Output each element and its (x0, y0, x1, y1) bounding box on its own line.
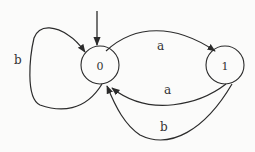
state-1-label: 1 (222, 60, 229, 73)
transition-0-0-label: b (14, 53, 22, 67)
transition-1-0-a-label: a (164, 83, 171, 97)
state-0-label: 0 (97, 60, 104, 73)
transition-1-0-b-label: b (160, 120, 168, 134)
state-0: 0 (81, 46, 119, 84)
state-1: 1 (206, 46, 244, 84)
transition-0-1-label: a (157, 39, 164, 53)
automaton-diagram: 0 1 b a a b (0, 0, 255, 152)
transition-0-0-b (30, 28, 102, 109)
